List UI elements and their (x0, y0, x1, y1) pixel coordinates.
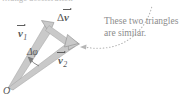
label-v1-letter: v (18, 27, 23, 39)
vector-delta-v-arrow (46, 26, 79, 48)
annotation-callout: These two triangles are similar. (104, 15, 195, 39)
label-v2: v2 (58, 55, 67, 68)
label-origin: O (3, 86, 10, 96)
annotation-line-2: are similar. (104, 27, 195, 39)
label-v1-subscript: 1 (23, 33, 27, 42)
label-v2-symbol: v (58, 55, 63, 66)
vector-overbar-arrow-icon (17, 25, 25, 26)
label-delta-phi: Δφ (27, 48, 38, 58)
label-v2-letter: v (58, 54, 63, 66)
label-v1-symbol: v (18, 28, 23, 39)
vector-overbar-arrow-icon (57, 52, 65, 53)
label-v1: v1 (18, 28, 27, 41)
label-delta-v-symbol: v (64, 12, 69, 23)
annotation-line-1: These two triangles (104, 15, 195, 27)
vector-overbar-arrow-icon (63, 9, 71, 10)
label-delta-v-letter: v (64, 11, 69, 23)
label-delta-v: Δv (57, 12, 69, 23)
label-delta-v-prefix: Δ (57, 11, 64, 23)
label-v2-subscript: 2 (63, 60, 67, 69)
vector-difference-figure: …ange acceleration Δv (0, 0, 195, 101)
